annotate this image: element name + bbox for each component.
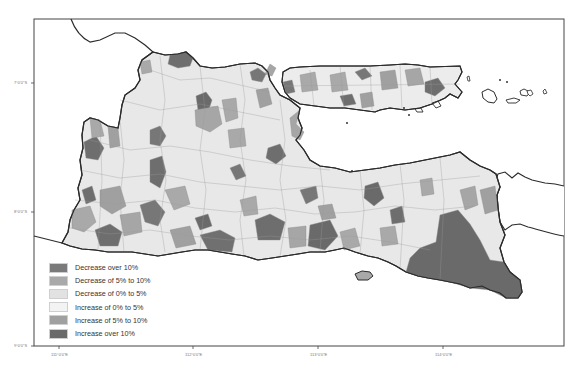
legend-label: Decrease over 10% [75, 263, 138, 272]
legend-label: Increase over 10% [75, 329, 135, 338]
small-island-6 [499, 79, 501, 81]
small-island-10 [346, 122, 348, 124]
small-island-8 [403, 107, 405, 109]
legend-swatch-decrease-5-10 [49, 276, 68, 286]
legend-label: Increase of 0% to 5% [75, 303, 143, 312]
x-tick-label-112e: 112°0'0"E [185, 352, 202, 357]
y-tick-label-9s: 9°0'0"S [14, 343, 27, 348]
small-island-7 [506, 81, 508, 83]
legend-item-decrease-0-5: Decrease of 0% to 5% [49, 287, 151, 300]
small-island-5 [467, 76, 470, 81]
y-tick-label-7s: 7°0'0"S [14, 80, 27, 85]
legend-item-increase-5-10: Increase of 5% to 10% [49, 314, 151, 327]
legend-item-increase-0-5: Increase of 0% to 5% [49, 301, 151, 314]
legend-item-decrease-5-10: Decrease of 5% to 10% [49, 274, 151, 287]
legend-label: Decrease of 5% to 10% [75, 276, 151, 285]
x-tick-label-111e: 111°0'0"E [51, 352, 68, 357]
y-tick-label-8s: 8°0'0"S [14, 209, 27, 214]
nusa-barung-island [355, 271, 373, 280]
x-tick-label-113e: 113°0'0"E [310, 352, 327, 357]
legend-label: Increase of 5% to 10% [75, 316, 147, 325]
legend-item-increase-over-10: Increase over 10% [49, 327, 151, 340]
legend-swatch-decrease-over-10 [49, 263, 68, 273]
small-island-9 [408, 114, 410, 116]
legend-swatch-decrease-0-5 [49, 289, 68, 299]
map-legend: Decrease over 10% Decrease of 5% to 10% … [49, 261, 151, 340]
x-tick-label-114e: 114°0'0"E [435, 352, 452, 357]
legend-item-decrease-over-10: Decrease over 10% [49, 261, 151, 274]
legend-swatch-increase-over-10 [49, 329, 68, 339]
legend-swatch-increase-0-5 [49, 302, 68, 312]
legend-swatch-increase-5-10 [49, 315, 68, 325]
legend-label: Decrease of 0% to 5% [75, 289, 147, 298]
